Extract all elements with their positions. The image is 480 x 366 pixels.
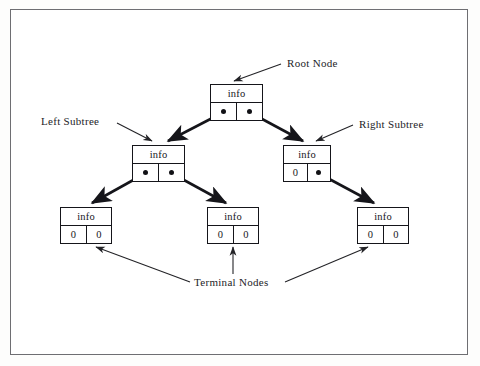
diagram-canvas: info info info 0 [0, 0, 480, 366]
label-root-node: Root Node [287, 57, 338, 69]
connector-layer [0, 0, 480, 366]
node-terminal1-left-null: 0 [61, 226, 86, 243]
leader-right-subtree [316, 125, 353, 141]
node-root-right-pointer[interactable] [236, 103, 262, 120]
node-right[interactable]: info 0 [283, 145, 331, 182]
node-terminal2-left-null: 0 [208, 226, 233, 243]
node-terminal2-right-null: 0 [233, 226, 259, 243]
label-right-subtree: Right Subtree [359, 118, 424, 130]
node-terminal2[interactable]: info 0 0 [207, 207, 259, 244]
node-terminal1-right-null: 0 [86, 226, 112, 243]
node-terminal3-right-null: 0 [383, 226, 409, 243]
node-right-right-pointer[interactable] [307, 164, 331, 181]
node-root-info: info [211, 85, 262, 103]
leader-terminal-right [285, 247, 368, 282]
node-root-left-pointer[interactable] [211, 103, 236, 120]
leader-root-node [234, 64, 281, 81]
pointer-dot-icon [169, 170, 174, 175]
label-terminal-nodes: Terminal Nodes [194, 276, 269, 288]
node-right-info: info [284, 146, 330, 164]
pointer-dot-icon [247, 109, 252, 114]
node-right-left-null: 0 [284, 164, 307, 181]
leader-terminal-left [96, 247, 190, 282]
node-left-info: info [133, 146, 184, 164]
node-terminal3[interactable]: info 0 0 [357, 207, 409, 244]
node-terminal2-info: info [208, 208, 258, 226]
node-left-left-pointer[interactable] [133, 164, 158, 181]
leader-left-subtree [117, 123, 152, 141]
label-left-subtree: Left Subtree [41, 115, 99, 127]
node-root[interactable]: info [210, 84, 263, 121]
node-left-right-pointer[interactable] [158, 164, 184, 181]
node-left[interactable]: info [132, 145, 185, 182]
node-terminal3-left-null: 0 [358, 226, 383, 243]
pointer-dot-icon [143, 170, 148, 175]
node-terminal1-info: info [61, 208, 111, 226]
pointer-dot-icon [221, 109, 226, 114]
node-terminal1[interactable]: info 0 0 [60, 207, 112, 244]
node-terminal3-info: info [358, 208, 408, 226]
pointer-dot-icon [316, 170, 321, 175]
